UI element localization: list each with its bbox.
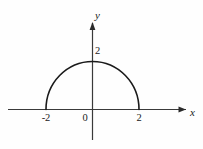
semicircle-graph-figure: y x -2 0 2 2	[0, 0, 203, 149]
origin-label: 0	[79, 113, 91, 124]
x-axis-arrowhead	[179, 107, 187, 113]
y-axis-label: y	[95, 10, 100, 21]
x-axis-label: x	[190, 107, 195, 118]
x-tick-label-neg2: -2	[37, 113, 55, 124]
x-tick-label-2: 2	[133, 113, 145, 124]
y-tick-label-2: 2	[95, 46, 107, 57]
plot-canvas	[0, 0, 203, 149]
y-axis-arrowhead	[90, 22, 96, 30]
